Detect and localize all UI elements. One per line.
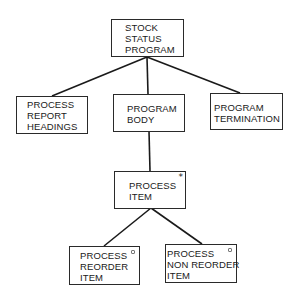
structure-chart: STOCK STATUS PROGRAM PROCESS REPORT HEAD…: [0, 0, 297, 294]
node-label: STOCK STATUS PROGRAM: [125, 22, 175, 55]
node-label: PROCESS REPORT HEADINGS: [27, 99, 77, 132]
selection-marker-icon: [228, 248, 232, 252]
node-process-reorder-item: PROCESS REORDER ITEM: [69, 246, 140, 285]
node-label: PROGRAM BODY: [127, 103, 177, 125]
selection-marker-icon: [131, 250, 135, 254]
node-stock-status-program: STOCK STATUS PROGRAM: [111, 19, 184, 57]
iteration-marker-icon: *: [178, 173, 183, 182]
node-process-item: PROCESS ITEM *: [114, 171, 186, 209]
node-program-termination: PROGRAM TERMINATION: [210, 93, 283, 130]
node-process-non-reorder-item: PROCESS NON REORDER ITEM: [165, 244, 237, 283]
node-label: PROCESS ITEM: [129, 180, 176, 202]
node-process-report-headings: PROCESS REPORT HEADINGS: [16, 96, 88, 134]
edge-item-nonreorder: [151, 208, 202, 244]
node-program-body: PROGRAM BODY: [113, 94, 185, 132]
node-label: PROGRAM TERMINATION: [214, 102, 280, 124]
edge-item-reorder: [104, 208, 151, 246]
node-label: PROCESS REORDER ITEM: [80, 250, 128, 283]
edge-root-termination: [147, 57, 240, 93]
edge-body-item: [149, 131, 150, 171]
edge-root-headings: [52, 57, 147, 96]
edge-root-body: [147, 57, 148, 94]
node-label: PROCESS NON REORDER ITEM: [167, 248, 239, 281]
